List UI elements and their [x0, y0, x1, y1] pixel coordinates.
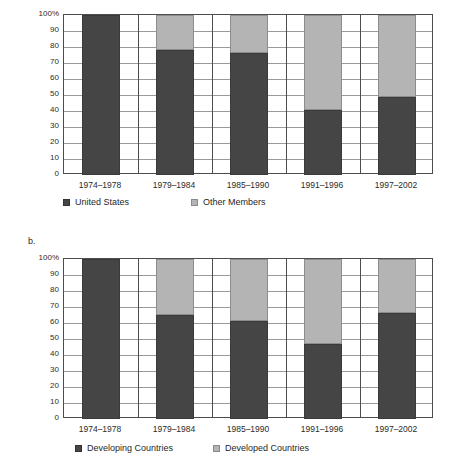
bar-segment-developing-countries — [304, 344, 342, 419]
bar-segment-united-states — [304, 110, 342, 175]
chart-panel-a: 100%9080706050403020100 1974–19781979–19… — [0, 0, 450, 230]
y-tick-label: 100% — [39, 10, 59, 18]
bar-segment-other-members — [230, 15, 268, 53]
stacked-bar — [82, 15, 120, 175]
stacked-bar — [378, 259, 416, 419]
plot-area-a — [63, 14, 433, 174]
bar-segment-developed-countries — [304, 259, 342, 344]
bar-segment-united-states — [378, 97, 416, 175]
y-axis-labels-b: 100%9080706050403020100 — [10, 258, 59, 418]
y-tick-label: 0 — [55, 170, 59, 178]
legend-a: United StatesOther Members — [63, 198, 328, 207]
bar-segment-united-states — [230, 53, 268, 175]
chart-panel-b: b. 100%9080706050403020100 1974–19781979… — [0, 230, 450, 473]
y-tick-label: 40 — [50, 106, 59, 114]
x-tick-label: 1974–1978 — [63, 425, 137, 434]
y-tick-label: 80 — [50, 42, 59, 50]
bar-segment-other-members — [304, 15, 342, 110]
category-divider — [360, 259, 361, 417]
legend-label: Developing Countries — [87, 444, 173, 453]
legend-item[interactable]: Developing Countries — [75, 444, 173, 453]
stacked-bar — [304, 15, 342, 175]
dark-square-icon — [63, 199, 70, 206]
stacked-bar — [156, 259, 194, 419]
y-tick-label: 70 — [50, 58, 59, 66]
y-axis-labels-a: 100%9080706050403020100 — [10, 14, 59, 174]
y-tick-label: 10 — [50, 154, 59, 162]
category-divider — [212, 259, 213, 417]
x-tick-label: 1997–2002 — [359, 425, 433, 434]
figure-caption — [18, 466, 438, 473]
x-tick-label: 1991–1996 — [285, 181, 359, 190]
bar-segment-united-states — [82, 15, 120, 175]
x-tick-label: 1997–2002 — [359, 181, 433, 190]
y-tick-label: 0 — [55, 414, 59, 422]
category-divider — [360, 15, 361, 173]
bar-segment-developed-countries — [378, 259, 416, 313]
y-tick-label: 60 — [50, 74, 59, 82]
bar-segment-developing-countries — [230, 321, 268, 419]
legend-item[interactable]: Other Members — [191, 198, 266, 207]
y-tick-label: 30 — [50, 366, 59, 374]
y-tick-label: 50 — [50, 90, 59, 98]
y-tick-label: 70 — [50, 302, 59, 310]
legend-label: Developed Countries — [225, 444, 309, 453]
legend-label: United States — [75, 198, 129, 207]
legend-b: Developing CountriesDeveloped Countries — [75, 444, 349, 453]
y-tick-label: 60 — [50, 318, 59, 326]
y-tick-label: 20 — [50, 138, 59, 146]
bar-segment-other-members — [378, 15, 416, 97]
bar-segment-other-members — [156, 15, 194, 50]
light-square-icon — [213, 445, 220, 452]
bar-segment-developed-countries — [230, 259, 268, 321]
category-divider — [138, 15, 139, 173]
x-tick-label: 1974–1978 — [63, 181, 137, 190]
y-tick-label: 80 — [50, 286, 59, 294]
y-tick-label: 100% — [39, 254, 59, 262]
light-square-icon — [191, 199, 198, 206]
category-divider — [286, 15, 287, 173]
stacked-bar — [230, 259, 268, 419]
panel-b-letter: b. — [28, 236, 36, 246]
plot-area-b — [63, 258, 433, 418]
x-tick-label: 1985–1990 — [211, 425, 285, 434]
y-tick-label: 30 — [50, 122, 59, 130]
legend-item[interactable]: United States — [63, 198, 129, 207]
legend-label: Other Members — [203, 198, 266, 207]
y-tick-label: 40 — [50, 350, 59, 358]
bar-segment-united-states — [156, 50, 194, 175]
dark-square-icon — [75, 445, 82, 452]
x-tick-label: 1979–1984 — [137, 425, 211, 434]
category-divider — [212, 15, 213, 173]
y-tick-label: 90 — [50, 26, 59, 34]
category-divider — [286, 259, 287, 417]
y-tick-label: 50 — [50, 334, 59, 342]
legend-item[interactable]: Developed Countries — [213, 444, 309, 453]
y-tick-label: 90 — [50, 270, 59, 278]
bar-segment-developing-countries — [378, 313, 416, 419]
stacked-bar — [156, 15, 194, 175]
y-tick-label: 10 — [50, 398, 59, 406]
x-tick-label: 1985–1990 — [211, 181, 285, 190]
x-tick-label: 1991–1996 — [285, 425, 359, 434]
bar-segment-developing-countries — [82, 259, 120, 419]
category-divider — [138, 259, 139, 417]
stacked-bar — [230, 15, 268, 175]
stacked-bar — [82, 259, 120, 419]
stacked-bar — [304, 259, 342, 419]
stacked-bar — [378, 15, 416, 175]
y-tick-label: 20 — [50, 382, 59, 390]
x-tick-label: 1979–1984 — [137, 181, 211, 190]
bar-segment-developed-countries — [156, 259, 194, 315]
bar-segment-developing-countries — [156, 315, 194, 419]
